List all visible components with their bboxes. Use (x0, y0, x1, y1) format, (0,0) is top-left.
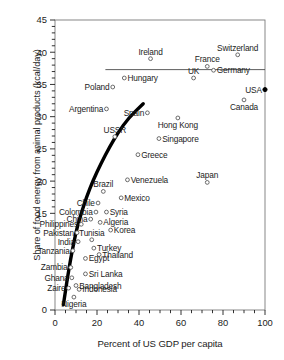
x-tick-label: 20 (92, 317, 102, 328)
data-point-label: Korea (114, 225, 136, 235)
data-point-label: Ghana (44, 273, 69, 283)
data-point (105, 107, 109, 111)
data-point (136, 153, 140, 157)
data-point-label: Greece (141, 150, 168, 160)
data-point (76, 240, 80, 244)
data-point (119, 196, 123, 200)
data-point-label: Spain (124, 108, 145, 118)
scatter-plot: SwitzerlandIrelandFranceGermanyUKHungary… (0, 0, 284, 360)
data-point (69, 266, 73, 270)
data-point-label: France (195, 54, 220, 64)
data-point-label: USA (245, 85, 262, 95)
data-point-label: Hong Kong (158, 120, 199, 130)
y-tick-label: 15 (37, 208, 47, 219)
data-point-label: Canada (230, 102, 259, 112)
y-tick-label: 30 (37, 111, 47, 122)
data-point (236, 53, 240, 57)
data-point (205, 65, 209, 69)
data-point (101, 190, 105, 194)
data-point-label: Brazil (93, 179, 113, 189)
data-point-label: Tunisia (79, 228, 105, 238)
y-tick-label: 0 (42, 304, 47, 315)
axes-layer (50, 20, 265, 315)
data-point (105, 210, 109, 214)
data-point (74, 284, 78, 288)
data-point-label: Germany (217, 65, 251, 75)
data-point-label: Thailand (102, 250, 133, 260)
data-point (89, 217, 93, 221)
data-point (146, 111, 150, 115)
data-point (157, 137, 161, 141)
data-point-label: Indonesia (82, 284, 117, 294)
x-tick-label: 80 (218, 317, 228, 328)
x-tick-label: 60 (176, 317, 186, 328)
data-point (98, 220, 102, 224)
data-point-label: Hungary (128, 73, 159, 83)
data-point-label: Mexico (124, 193, 150, 203)
data-point (111, 85, 115, 89)
x-tick-label: 0 (52, 317, 57, 328)
data-point-label: Tanzania (38, 246, 71, 256)
data-point (90, 238, 94, 242)
data-point (113, 135, 117, 139)
data-point (96, 201, 100, 205)
data-point (94, 210, 98, 214)
data-point (109, 228, 113, 232)
data-point-label: Poland (85, 82, 110, 92)
x-tick-label: 100 (257, 317, 273, 328)
data-point (71, 249, 75, 253)
data-point-label: Nigeria (61, 299, 87, 309)
data-point-label: Singapore (162, 134, 199, 144)
data-point-label: USSR (104, 125, 127, 135)
data-point-label: Ireland (138, 47, 163, 57)
data-point-label: Switzerland (217, 43, 259, 53)
data-point-label: Zambia (41, 262, 68, 272)
data-point (84, 257, 88, 261)
data-point-label: Japan (196, 170, 218, 180)
chart-figure: Share of food energy from animal product… (0, 0, 284, 360)
data-point (212, 68, 216, 72)
data-point-label: UK (188, 66, 200, 76)
data-point (67, 286, 71, 290)
data-point-label: Argentina (69, 104, 104, 114)
data-point (263, 88, 267, 92)
data-point (84, 272, 88, 276)
data-point-label: Zaire (47, 283, 66, 293)
y-tick-label: 20 (37, 176, 47, 187)
data-point (122, 76, 126, 80)
tick-labels-layer: 020406080100015202530354045 (37, 14, 273, 328)
x-tick-label: 40 (134, 317, 144, 328)
data-point-label: Syria (110, 207, 129, 217)
data-point (126, 178, 130, 182)
data-point (92, 246, 96, 250)
data-point (70, 276, 74, 280)
y-tick-label: 45 (37, 14, 47, 25)
y-tick-label: 25 (37, 143, 47, 154)
data-point (192, 76, 196, 80)
data-point-label: Venezuela (131, 175, 169, 185)
y-tick-label: 40 (37, 47, 47, 58)
data-point (149, 57, 153, 61)
data-point (205, 181, 209, 185)
y-tick-label: 35 (37, 79, 47, 90)
data-point-label: Sri Lanka (89, 269, 123, 279)
